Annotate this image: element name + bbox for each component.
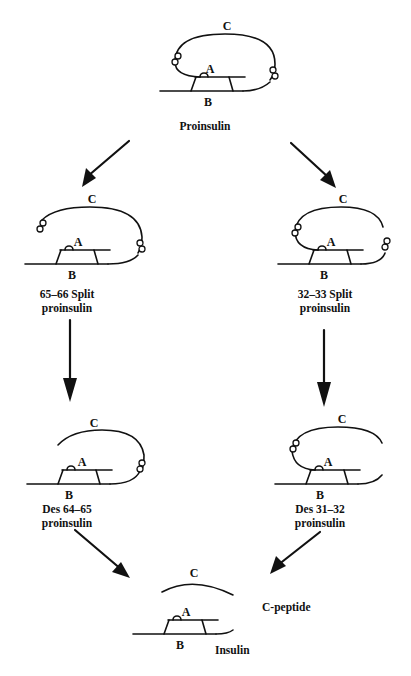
pathway-diagram: C A B Proinsulin C A B 65–66 Split proin… <box>0 0 411 676</box>
chain-label-b: B <box>176 638 184 652</box>
chain-label-a: A <box>206 62 215 76</box>
node-des-64-65: C A B <box>27 416 145 502</box>
chain-label-b: B <box>316 488 324 502</box>
chain-label-c: C <box>339 192 348 206</box>
arrow-65-66-to-des-64-65 <box>63 320 77 402</box>
label-insulin: Insulin <box>215 644 250 656</box>
chain-label-a: A <box>74 235 83 249</box>
arrow-des-31-32-to-insulin <box>270 532 320 574</box>
chain-label-c: C <box>223 19 232 33</box>
chain-label-b: B <box>65 488 73 502</box>
arrow-32-33-to-des-31-32 <box>317 330 331 407</box>
node-split-65-66: C A B <box>25 192 145 282</box>
chain-label-a: A <box>78 455 87 469</box>
label-split-32-33-line1: 32–33 Split <box>298 288 353 301</box>
label-des-31-32-line1: Des 31–32 <box>295 503 345 515</box>
arrow-proinsulin-to-65-66 <box>82 141 129 187</box>
chain-label-a: A <box>327 235 336 249</box>
label-des-31-32-line2: proinsulin <box>295 517 346 530</box>
label-proinsulin: Proinsulin <box>180 120 232 132</box>
node-des-31-32: C A B <box>275 412 382 502</box>
chain-label-b: B <box>204 95 212 109</box>
label-split-65-66-line2: proinsulin <box>42 302 93 315</box>
chain-label-c: C <box>90 416 99 430</box>
label-c-peptide: C-peptide <box>262 601 311 614</box>
node-split-32-33: C A B <box>278 192 390 282</box>
chain-label-a: A <box>182 605 191 619</box>
label-des-64-65-line1: Des 64–65 <box>42 503 92 515</box>
chain-label-b: B <box>68 268 76 282</box>
node-proinsulin: C A B <box>160 19 278 109</box>
label-split-65-66-line1: 65–66 Split <box>40 288 95 301</box>
chain-label-c: C <box>338 412 347 426</box>
arrow-des-64-65-to-insulin <box>75 530 130 578</box>
arrow-proinsulin-to-32-33 <box>291 143 336 188</box>
label-split-32-33-line2: proinsulin <box>300 302 351 315</box>
chain-label-a: A <box>324 455 333 469</box>
label-des-64-65-line2: proinsulin <box>42 517 93 530</box>
c-peptide-fragment: C <box>162 566 233 595</box>
chain-label-b: B <box>320 268 328 282</box>
chain-label-c: C <box>88 192 97 206</box>
chain-label-c: C <box>190 566 199 580</box>
